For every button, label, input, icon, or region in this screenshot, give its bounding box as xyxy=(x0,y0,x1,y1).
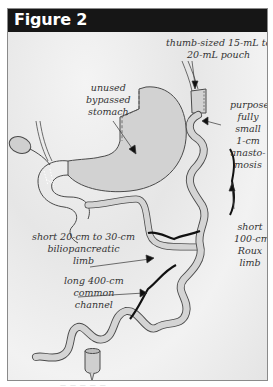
gallbladder xyxy=(8,121,52,165)
common-channel-bracket xyxy=(130,265,176,319)
label-common-channel: long 400-cm common channel xyxy=(64,275,124,311)
label-bypassed-stomach: unused bypassed stomach xyxy=(86,82,131,118)
biliopancreatic-bracket xyxy=(148,231,200,239)
label-anastomosis: purpose- fully small 1-cm anasto- mosis xyxy=(230,99,266,171)
figure-caption-cutoff: — — — — — xyxy=(60,381,107,387)
gastric-bypass-diagram xyxy=(8,9,267,380)
label-biliopancreatic-limb: short 20-cm to 30-cm biliopancreatic lim… xyxy=(32,231,135,267)
colon-stub xyxy=(85,349,100,381)
figure-frame: Figure 2 xyxy=(7,8,268,381)
label-pouch: thumb-sized 15-mL to 20-mL pouch xyxy=(166,37,268,61)
label-roux-limb: short 100-cm Roux limb xyxy=(234,221,266,269)
